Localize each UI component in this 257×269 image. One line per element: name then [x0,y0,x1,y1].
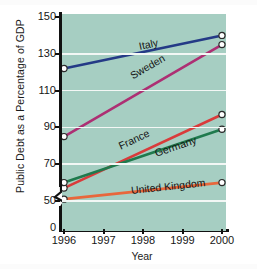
x-tick-label: 1998 [123,234,163,246]
y-tick-label: 0 [30,222,56,233]
gridline [62,200,226,202]
data-point-marker [62,65,67,71]
x-axis-label: Year [58,250,226,262]
data-point-marker [62,180,67,186]
x-tick-mark [142,229,144,234]
chart-figure: Public Debt as a Percentage of GDP 15013… [0,0,257,269]
y-tick-label: 90 [30,121,56,132]
gridline [62,163,226,165]
x-tick-label: 1997 [84,234,124,246]
y-tick-labels: 1501301109070500 [26,0,56,269]
y-tick-mark [55,163,60,165]
y-tick-label: 110 [30,85,56,96]
y-tick-mark [55,90,60,92]
x-tick-mark [182,229,184,234]
y-axis-label: Public Debt as a Percentage of GDP [14,1,26,211]
y-tick-label: 130 [30,48,56,59]
gridline [62,90,226,92]
y-tick-mark [55,16,60,18]
x-tick-label: 1999 [163,234,203,246]
y-tick-mark [55,200,60,202]
x-tick-mark [103,229,105,234]
data-point-marker [219,111,225,117]
x-tick-mark [63,229,65,234]
y-tick-mark [55,126,60,128]
gridline [62,53,226,55]
x-tick-label: 1996 [44,234,84,246]
x-tick-mark [221,229,223,234]
data-point-marker [62,134,67,140]
y-tick-label: 70 [30,158,56,169]
y-tick-label: 150 [30,11,56,22]
y-tick-mark [55,53,60,55]
data-point-marker [219,42,225,48]
data-point-marker [219,32,225,38]
x-tick-label: 2000 [202,234,242,246]
data-point-marker [219,180,225,186]
